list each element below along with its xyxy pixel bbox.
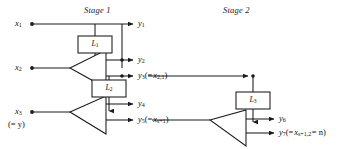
row-3-signal-path <box>30 110 70 114</box>
output-label-y3: y3(= x2,1) <box>138 70 167 80</box>
figure-canvas: Stage 1 Stage 2 x1 x2 x3 (= y) y1 y2 y3(… <box>0 0 340 149</box>
row-1-signal-path <box>30 22 133 26</box>
block-label-L2: L2 <box>92 83 126 92</box>
stage-label-2: Stage 2 <box>223 5 250 15</box>
stage-label-1: Stage 1 <box>84 5 111 15</box>
junction-dot-row3 <box>120 74 124 78</box>
input-label-x2: x2 <box>15 62 22 72</box>
amplifier-triangle-2 <box>70 96 106 134</box>
junction-dot-row2 <box>120 58 124 62</box>
input-note-x3-alias: (= y) <box>8 119 25 129</box>
row-2-signal-path <box>30 66 70 70</box>
output-label-y6: y6 <box>279 113 286 123</box>
output-label-y1: y1 <box>138 18 145 28</box>
input-label-x3: x3 <box>15 106 22 116</box>
output-label-y5: y5(= xs+1) <box>138 114 168 124</box>
output-label-y2: y2 <box>138 54 145 64</box>
amplifier-triangle-3 <box>210 110 246 146</box>
block-label-L3: L3 <box>236 95 270 104</box>
block-label-L1: L1 <box>78 39 112 48</box>
input-label-x1: x1 <box>15 18 22 28</box>
output-label-y7: y7(= xs+1,2 = n) <box>279 127 326 137</box>
junction-dot-stage2 <box>251 74 255 78</box>
output-label-y4: y4 <box>138 98 145 108</box>
